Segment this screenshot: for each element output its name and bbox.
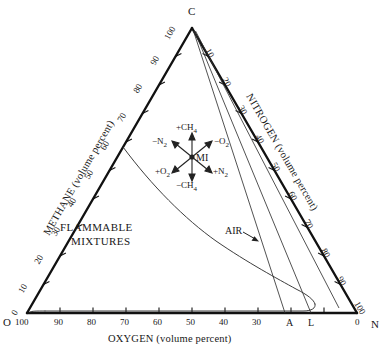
diagram-canvas bbox=[0, 0, 389, 356]
ternary-flammability-diagram: C O N 0 10 20 30 40 50 60 70 80 90 100 1… bbox=[0, 0, 389, 356]
apex-ray-lines bbox=[194, 31, 340, 313]
mi-compass bbox=[172, 133, 212, 181]
air-line bbox=[196, 31, 340, 308]
air-callout-arrow bbox=[243, 232, 259, 242]
envelope-upper-boundary bbox=[123, 147, 315, 304]
envelope-lower-boundary bbox=[45, 304, 315, 311]
envelope-left-closure bbox=[45, 147, 123, 311]
